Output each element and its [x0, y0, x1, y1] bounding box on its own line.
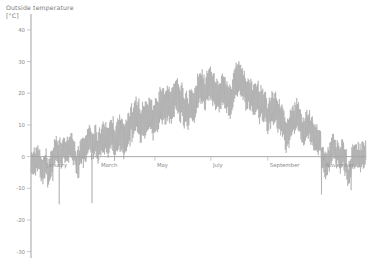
- y-tick-label: -10: [16, 185, 25, 191]
- x-tick-label: July: [212, 162, 224, 169]
- y-tick-label: -30: [16, 249, 25, 255]
- y-tick-label: 20: [18, 90, 25, 96]
- y-tick-label: 30: [18, 59, 25, 65]
- outside-temperature-chart: Outside temperature[°C] 403020100-10-20-…: [0, 0, 372, 267]
- y-tick-label: 40: [18, 27, 25, 33]
- y-tick-label: 10: [18, 122, 25, 128]
- x-tick-label: May: [157, 162, 169, 169]
- plot-area: 403020100-10-20-30JanuaryMarchMayJulySep…: [0, 0, 372, 267]
- x-tick-label: September: [270, 162, 301, 169]
- y-tick-label: 0: [22, 154, 26, 160]
- x-tick-label: March: [101, 162, 117, 168]
- y-tick-label: -20: [16, 217, 25, 223]
- temperature-series: [31, 61, 366, 204]
